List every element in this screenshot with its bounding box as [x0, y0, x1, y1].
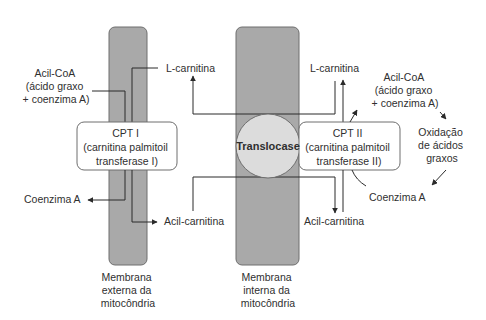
oxidation-label: Oxidação de ácidos graxos: [418, 126, 466, 164]
left-acyl-carnitine-label: Acil-carnitina: [164, 215, 224, 227]
translocase-label: Translocase: [236, 140, 300, 152]
right-l-carnitine-label: L-carnitina: [310, 62, 359, 74]
right-acyl-carnitine-label: Acil-carnitina: [304, 215, 364, 227]
left-l-carnitine-label: L-carnitina: [166, 62, 215, 74]
inner-membrane-label: Membrana interna da mitocôndria: [241, 271, 295, 309]
cpt2-to-acyl-coa-arrow: [350, 110, 357, 122]
carnitine-shuttle-diagram: CPT I (carnitina palmitoil transferase I…: [0, 0, 486, 320]
acyl-coa-to-oxidation-arrow: [440, 112, 446, 119]
left-coenzyme-a-label: Coenzima A: [24, 193, 81, 205]
coenzyme-a-return-curve: [352, 170, 366, 186]
right-acyl-coa-label: Acil-CoA (ácido graxo + coenzima A): [372, 71, 439, 109]
oxidation-to-coenzyme-arrow: [432, 170, 446, 185]
left-acyl-coa-label: Acil-CoA (ácido graxo + coenzima A): [23, 67, 90, 105]
right-coenzyme-a-label: Coenzima A: [369, 191, 426, 203]
outer-membrane-label: Membrana externa da mitocôndria: [101, 271, 155, 309]
